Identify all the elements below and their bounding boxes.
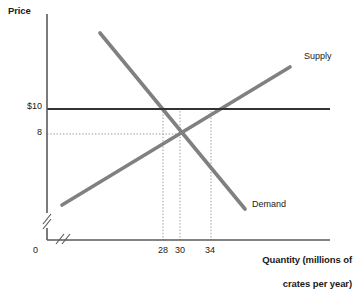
y-axis-title: Price — [8, 6, 31, 16]
x-tick-label-34: 34 — [199, 246, 221, 256]
y-tick-label-10: $10 — [8, 102, 42, 112]
x-axis-title-line1: Quantity (millions of — [262, 254, 352, 265]
x-axis-title: Quantity (millions of crates per year) — [236, 242, 352, 293]
x-axis-title-line2: crates per year) — [283, 278, 352, 289]
supply-curve-label: Supply — [304, 52, 332, 62]
demand-curve-label: Demand — [252, 200, 286, 210]
y-tick-label-8: 8 — [8, 128, 42, 138]
origin-label: 0 — [33, 246, 38, 256]
x-tick-label-30: 30 — [169, 246, 191, 256]
